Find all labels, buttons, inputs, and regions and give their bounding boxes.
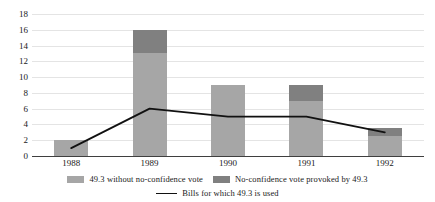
x-tick-label: 1991 [276, 158, 336, 169]
x-tick-label: 1988 [41, 158, 101, 169]
combo-bar-line-chart: 18 16 14 12 10 8 6 4 2 0 198819891990199… [0, 0, 435, 202]
plot-area [32, 14, 424, 156]
legend-item-label: Bills for which 49.3 is used [182, 188, 278, 198]
legend-item-label: 49.3 without no-confidence vote [89, 174, 203, 184]
y-tick-label: 14 [2, 41, 28, 50]
x-tick-label: 1989 [120, 158, 180, 169]
x-tick-label: 1990 [198, 158, 258, 169]
y-tick-label: 8 [2, 88, 28, 97]
x-axis-line [32, 156, 424, 157]
y-tick-label: 16 [2, 25, 28, 34]
line-marker-icon [156, 193, 177, 194]
y-tick-label: 10 [2, 73, 28, 82]
x-axis: 19881989199019911992 [32, 158, 424, 172]
swatch-light-icon [67, 176, 84, 183]
y-tick-label: 18 [2, 10, 28, 19]
x-tick-label: 1992 [355, 158, 415, 169]
legend-row-bottom: Bills for which 49.3 is used [0, 186, 435, 200]
legend-item-bills-used: Bills for which 49.3 is used [156, 188, 278, 198]
y-axis: 18 16 14 12 10 8 6 4 2 0 [0, 14, 28, 156]
y-tick-label: 2 [2, 136, 28, 145]
legend-row-top: 49.3 without no-confidence vote No-confi… [0, 172, 435, 186]
y-tick-label: 4 [2, 120, 28, 129]
swatch-dark-icon [213, 176, 230, 183]
chart-legend: 49.3 without no-confidence vote No-confi… [0, 172, 435, 200]
line-series-layer [32, 14, 424, 156]
legend-item-no-confidence-provoked: No-confidence vote provoked by 49.3 [213, 174, 368, 184]
y-tick-label: 6 [2, 104, 28, 113]
y-tick-label: 12 [2, 57, 28, 66]
legend-item-label: No-confidence vote provoked by 49.3 [235, 174, 368, 184]
line-path [71, 109, 385, 148]
y-tick-label: 0 [2, 152, 28, 161]
legend-item-without-no-confidence: 49.3 without no-confidence vote [67, 174, 203, 184]
